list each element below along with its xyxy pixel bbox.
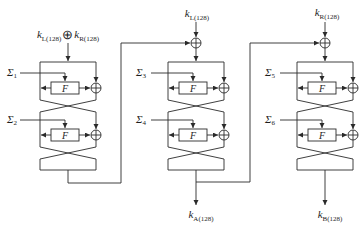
input-label-kl-xor-kr: kL(128)⊕kR(128) xyxy=(37,27,100,43)
xor-icon xyxy=(191,38,201,48)
sigma-3-label: Σ3 xyxy=(135,66,147,80)
xor-icon xyxy=(91,130,101,140)
sigma-6-arrow xyxy=(280,120,322,128)
f-label: F xyxy=(61,130,69,141)
sigma-1-arrow xyxy=(20,73,65,81)
xor-icon xyxy=(320,38,330,48)
sigma-6-label: Σ6 xyxy=(264,113,276,127)
xor-icon xyxy=(348,83,358,93)
xor-icon xyxy=(219,130,229,140)
sigma-3-arrow xyxy=(151,73,193,81)
f-label: F xyxy=(61,83,69,94)
xor-2-output-cross xyxy=(40,140,96,170)
feedback-line-col2-to-col3 xyxy=(196,43,319,182)
sigma-2-label: Σ2 xyxy=(6,113,18,127)
sigma-5-arrow xyxy=(280,73,322,81)
sigma-4-arrow xyxy=(151,120,193,128)
xor-icon xyxy=(219,83,229,93)
input-label-kr: kR(128) xyxy=(315,6,340,21)
sigma-1-label: Σ1 xyxy=(6,66,18,80)
feistel-column-3: kR(128) Σ5 F Σ6 F xyxy=(264,6,358,223)
left-branch-cross-1 xyxy=(40,62,96,129)
output-label-kb: kB(128) xyxy=(318,208,343,223)
xor-6-output-cross xyxy=(297,140,353,170)
camellia-key-schedule-diagram: kL(128)⊕kR(128) Σ1 F Σ2 F xyxy=(0,0,362,227)
f-label: F xyxy=(189,130,197,141)
feedback-line-col1-to-col2 xyxy=(68,43,190,183)
sigma-2-arrow xyxy=(20,120,65,128)
f-label: F xyxy=(189,83,197,94)
left-branch-cross-1 xyxy=(168,62,224,129)
sigma-5-label: Σ5 xyxy=(264,66,276,80)
output-label-ka: kA(128) xyxy=(188,208,214,223)
left-branch-cross-1 xyxy=(297,62,353,129)
f-label: F xyxy=(318,83,326,94)
input-label-kl: kL(128) xyxy=(185,7,210,22)
f-label: F xyxy=(318,130,326,141)
xor-icon xyxy=(348,130,358,140)
xor-icon xyxy=(91,83,101,93)
xor-4-output-cross xyxy=(168,140,224,170)
feistel-column-2: kL(128) Σ3 F Σ4 F xyxy=(135,7,319,223)
sigma-4-label: Σ4 xyxy=(135,113,147,127)
feistel-column-1: kL(128)⊕kR(128) Σ1 F Σ2 F xyxy=(6,27,190,183)
